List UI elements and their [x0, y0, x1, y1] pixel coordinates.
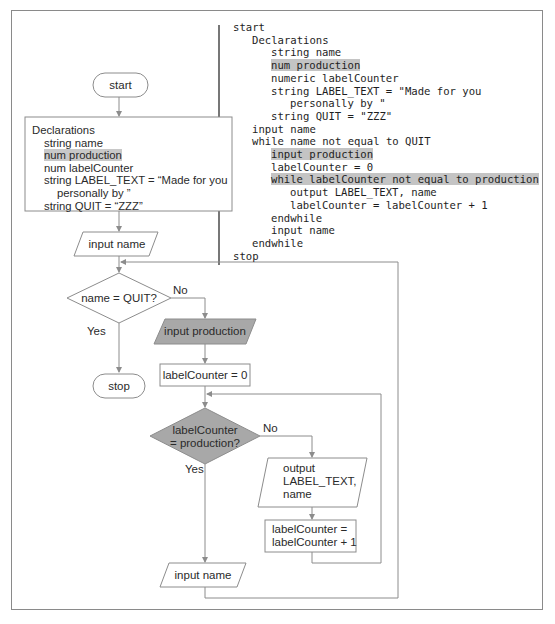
- declaration-line: string QUIT = “ZZZ”: [32, 200, 227, 213]
- stop-label: stop: [93, 380, 145, 393]
- code-line: endwhile: [233, 212, 539, 225]
- input-production-label: input production: [157, 325, 253, 338]
- code-line: labelCounter = 0: [233, 161, 539, 174]
- decision-quit-yes-label: Yes: [87, 325, 106, 338]
- code-line: output LABEL_TEXT, name: [233, 186, 539, 199]
- input-name-top-label: input name: [76, 238, 158, 251]
- declaration-line-highlighted: num production: [44, 149, 122, 161]
- declarations-title: Declarations: [32, 124, 227, 137]
- code-line: labelCounter = labelCounter + 1: [233, 199, 539, 212]
- decision-counter-yes-label: Yes: [185, 463, 204, 476]
- decision-quit-label: name = QUIT?: [67, 292, 171, 305]
- output-label-line2: LABEL_TEXT,: [283, 475, 357, 488]
- declaration-line: personally by ”: [32, 187, 227, 200]
- code-line: start: [233, 21, 539, 34]
- pseudocode-block: start Declarations string name num produ…: [233, 21, 539, 262]
- increment-label-line2: labelCounter + 1: [272, 536, 357, 549]
- decision-counter-no-label: No: [263, 422, 278, 435]
- declaration-line: string name: [32, 137, 227, 150]
- code-line-highlighted: input production: [271, 148, 373, 160]
- code-line: input name: [233, 224, 539, 237]
- decision-counter-label-line2: = production?: [150, 437, 260, 450]
- code-line: stop: [233, 250, 539, 263]
- code-line: Declarations: [233, 34, 539, 47]
- code-line: while name not equal to QUIT: [233, 135, 539, 148]
- code-line: endwhile: [233, 237, 539, 250]
- declaration-line: string LABEL_TEXT = “Made for you: [32, 174, 227, 187]
- declarations-text: Declarations string name num production …: [32, 124, 227, 212]
- output-label-line3: name: [283, 488, 312, 501]
- code-line-highlighted: num production: [271, 59, 360, 71]
- input-name-bottom-label: input name: [162, 569, 244, 582]
- decision-counter-label-line1: labelCounter: [150, 424, 260, 437]
- code-line-highlighted: while labelCounter not equal to producti…: [271, 173, 539, 185]
- declaration-line: num labelCounter: [32, 162, 227, 175]
- output-label-line1: output: [283, 462, 315, 475]
- init-counter-label: labelCounter = 0: [160, 369, 250, 382]
- code-line: string name: [233, 46, 539, 59]
- code-line: numeric labelCounter: [233, 72, 539, 85]
- decision-quit-no-label: No: [173, 284, 188, 297]
- start-label: start: [93, 79, 148, 92]
- code-line: string QUIT = "ZZZ": [233, 110, 539, 123]
- code-line: input name: [233, 123, 539, 136]
- code-line: string LABEL_TEXT = "Made for you: [233, 85, 539, 98]
- code-line: personally by ": [233, 97, 539, 110]
- increment-label-line1: labelCounter =: [272, 523, 347, 536]
